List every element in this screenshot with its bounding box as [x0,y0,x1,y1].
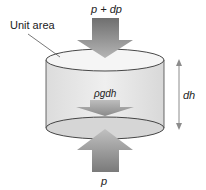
height-arrow-icon [176,59,182,130]
height-label: dh [183,90,195,101]
bottom-force-label: p [101,176,107,187]
weight-label: ρgdh [94,89,116,99]
top-force-label: p + dp [91,4,122,15]
unit-area-pointer [28,34,60,57]
unit-area-label: Unit area [10,20,55,31]
